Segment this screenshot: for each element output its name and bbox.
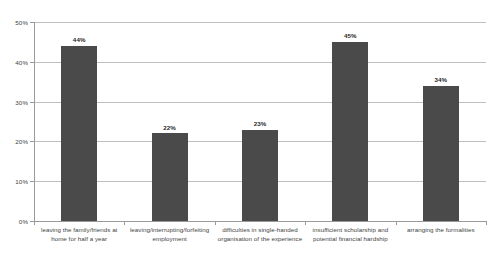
bar-value-2: 23% bbox=[254, 120, 267, 127]
y-axis-tick-label-0: 0% bbox=[0, 218, 28, 225]
y-axis-tick-label-40: 40% bbox=[0, 58, 28, 65]
x-tick-mark-0 bbox=[34, 221, 35, 225]
x-axis-label-1: leaving/interrupting/forfeiting employme… bbox=[124, 226, 214, 244]
x-axis-label-0: leaving the family/friends at home for h… bbox=[34, 226, 124, 244]
x-axis-label-2: difficulties in single-handed organisati… bbox=[213, 226, 307, 244]
bar-value-0: 44% bbox=[73, 36, 86, 43]
bar-slot-3: 45% bbox=[305, 22, 395, 221]
x-axis-label-3: insufficient scholarship and potential f… bbox=[305, 226, 395, 244]
y-axis-tick-label-20: 20% bbox=[0, 138, 28, 145]
y-axis-tick-label-10: 10% bbox=[0, 178, 28, 185]
bar-value-1: 22% bbox=[163, 124, 176, 131]
bar-slot-1: 22% bbox=[124, 22, 214, 221]
gridline-baseline bbox=[34, 221, 486, 222]
y-axis-tick-label-50: 50% bbox=[0, 19, 28, 26]
x-tick-mark-2 bbox=[215, 221, 216, 225]
bar-0[interactable] bbox=[61, 46, 97, 221]
bar-slot-2: 23% bbox=[215, 22, 305, 221]
x-axis-label-4: arranging the formalities bbox=[396, 226, 486, 235]
x-tick-mark-4 bbox=[396, 221, 397, 225]
x-axis-labels: leaving the family/friends at home for h… bbox=[34, 226, 486, 266]
bars-layer: 44% 22% 23% 45% 34% bbox=[34, 22, 486, 221]
y-axis-tick-label-30: 30% bbox=[0, 98, 28, 105]
x-tick-mark-5 bbox=[486, 221, 487, 225]
bar-slot-0: 44% bbox=[34, 22, 124, 221]
bar-value-3: 45% bbox=[344, 32, 357, 39]
bar-1[interactable] bbox=[152, 133, 188, 221]
bar-3[interactable] bbox=[332, 42, 368, 221]
bar-4[interactable] bbox=[423, 86, 459, 221]
bar-2[interactable] bbox=[242, 130, 278, 222]
x-tick-mark-3 bbox=[305, 221, 306, 225]
bar-value-4: 34% bbox=[434, 76, 447, 83]
x-tick-mark-1 bbox=[124, 221, 125, 225]
bar-chart: 50% 40% 30% 20% 10% 0% 44% 22% 23% 45% 3… bbox=[0, 0, 488, 271]
bar-slot-4: 34% bbox=[396, 22, 486, 221]
